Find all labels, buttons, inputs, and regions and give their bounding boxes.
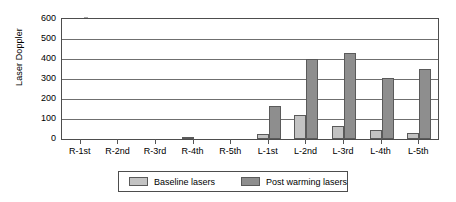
x-tick-mark: [343, 139, 344, 144]
y-tick-label: 400: [41, 53, 56, 63]
x-tick-label: L-4th: [370, 146, 391, 156]
legend-item: Baseline lasers: [129, 177, 215, 187]
plot-area: [61, 18, 439, 140]
bar: [370, 130, 382, 139]
x-tick-label: R-3rd: [144, 146, 167, 156]
bar: [306, 59, 318, 139]
bar: [332, 126, 344, 139]
x-tick-mark: [305, 139, 306, 144]
x-tick-label: L-2nd: [294, 146, 317, 156]
y-axis-tick-labels: 0100200300400500600: [26, 0, 56, 202]
y-tick-label: 200: [41, 93, 56, 103]
x-tick-mark: [80, 139, 81, 144]
x-tick-label: R-5th: [219, 146, 241, 156]
x-tick-label: L-5th: [408, 146, 429, 156]
x-tick-mark: [381, 139, 382, 144]
x-tick-label: L-1st: [258, 146, 278, 156]
x-tick-mark: [268, 139, 269, 144]
legend-swatch-icon: [241, 177, 260, 186]
x-tick-mark: [155, 139, 156, 144]
legend-label: Baseline lasers: [154, 177, 215, 187]
x-tick-mark: [230, 139, 231, 144]
x-tick-mark: [193, 139, 194, 144]
bar: [269, 106, 281, 139]
y-tick-label: 600: [41, 13, 56, 23]
x-tick-label: R-4th: [182, 146, 204, 156]
y-tick-label: 100: [41, 113, 56, 123]
y-tick-label: 0: [51, 133, 56, 143]
y-tick-label: 500: [41, 33, 56, 43]
bar: [419, 69, 431, 139]
x-tick-label: R-1st: [69, 146, 91, 156]
gridline: [62, 59, 438, 60]
legend-swatch-icon: [129, 177, 148, 186]
legend-label: Post warming lasers: [266, 177, 347, 187]
x-tick-mark: [418, 139, 419, 144]
legend-item: Post warming lasers: [241, 177, 347, 187]
y-axis-title: Laser Doppler: [14, 2, 24, 112]
gridline: [62, 39, 438, 40]
y-tick-label: 300: [41, 73, 56, 83]
x-tick-label: L-3rd: [332, 146, 353, 156]
bar-chart: Laser Doppler 0100200300400500600 R-1stR…: [0, 0, 456, 202]
x-axis-tick-labels: R-1stR-2ndR-3rdR-4thR-5thL-1stL-2ndL-3rd…: [61, 139, 439, 161]
bar: [382, 78, 394, 139]
bar: [294, 115, 306, 139]
x-tick-mark: [117, 139, 118, 144]
x-tick-label: R-2nd: [105, 146, 130, 156]
chart-legend: Baseline lasersPost warming lasers: [118, 171, 348, 192]
bar: [344, 53, 356, 139]
